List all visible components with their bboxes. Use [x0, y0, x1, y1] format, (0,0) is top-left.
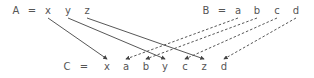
sequence-c-item: a: [123, 61, 129, 72]
sequence-c-item: c: [182, 61, 188, 72]
diagram-canvas: A=xyzB=abcdC=xabyczd: [0, 0, 314, 78]
edges: [48, 18, 296, 59]
sequence-b-equals: =: [218, 5, 226, 16]
sequence-c-item: z: [201, 61, 206, 72]
labels: A=xyzB=abcdC=xabyczd: [13, 5, 300, 72]
sequence-a-item: x: [45, 5, 51, 16]
solid-arrow-edge: [68, 18, 165, 59]
sequence-a-item: y: [65, 5, 71, 16]
solid-arrow-edge: [87, 18, 204, 59]
sequence-c-item: d: [221, 61, 227, 72]
sequence-b-item: a: [235, 5, 241, 16]
dashed-arrow-edge: [185, 18, 277, 59]
sequence-a-item: z: [84, 5, 89, 16]
sequence-c-item: b: [143, 61, 149, 72]
merge-diagram: A=xyzB=abcdC=xabyczd: [0, 0, 314, 78]
sequence-c-item: y: [162, 61, 168, 72]
sequence-b-item: b: [254, 5, 260, 16]
sequence-c-equals: =: [80, 61, 88, 72]
sequence-b-item: d: [293, 5, 299, 16]
sequence-b-name: B: [203, 5, 210, 16]
sequence-b-item: c: [274, 5, 280, 16]
dashed-arrow-edge: [126, 18, 238, 59]
sequence-c-name: C: [64, 61, 71, 72]
dashed-arrow-edge: [224, 18, 296, 59]
sequence-a-name: A: [13, 5, 20, 16]
solid-arrow-edge: [48, 18, 107, 59]
sequence-a-equals: =: [28, 5, 36, 16]
sequence-c-item: x: [104, 61, 110, 72]
dashed-arrow-edge: [146, 18, 257, 59]
